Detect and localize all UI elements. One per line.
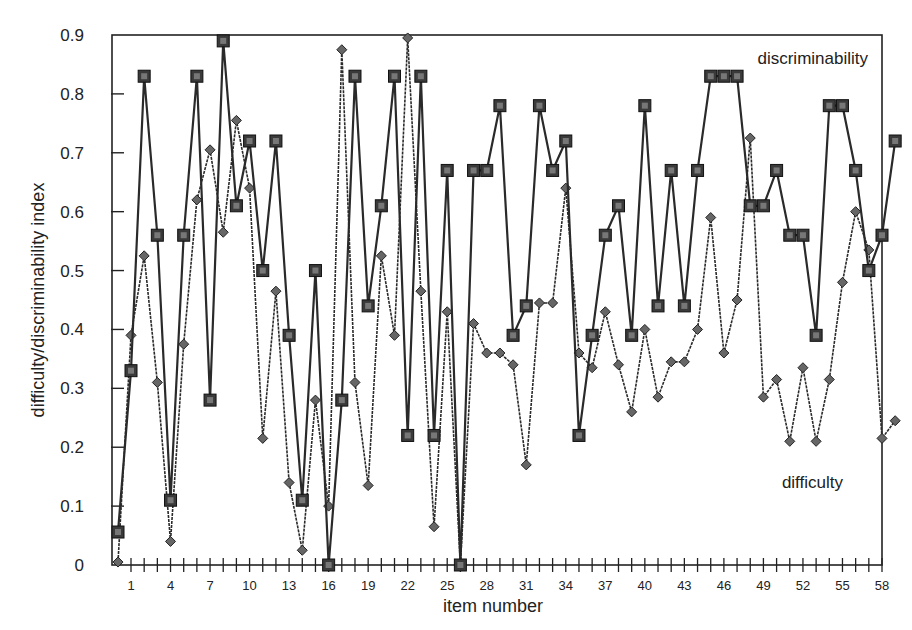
marker-inner <box>787 232 793 238</box>
x-tick-label: 25 <box>440 578 454 593</box>
difficulty-marker <box>271 286 281 296</box>
y-axis-ticks: 00.10.20.30.40.50.60.70.80.9 <box>60 26 124 575</box>
difficulty-marker <box>231 115 241 125</box>
marker-inner <box>695 167 701 173</box>
difficulty-marker <box>561 183 571 193</box>
marker-inner <box>813 332 819 338</box>
marker-inner <box>866 268 872 274</box>
marker-inner <box>444 167 450 173</box>
marker-inner <box>510 332 516 338</box>
x-tick-label: 13 <box>282 578 296 593</box>
marker-inner <box>853 167 859 173</box>
marker-inner <box>800 232 806 238</box>
x-tick-label: 19 <box>361 578 375 593</box>
marker-inner <box>879 232 885 238</box>
y-tick-label: 0.3 <box>60 379 84 398</box>
marker-inner <box>194 73 200 79</box>
difficulty-marker <box>429 522 439 532</box>
x-tick-label: 52 <box>796 578 810 593</box>
x-tick-label: 7 <box>206 578 213 593</box>
difficulty-marker <box>179 339 189 349</box>
marker-inner <box>286 332 292 338</box>
difficulty-marker <box>745 133 755 143</box>
marker-inner <box>484 167 490 173</box>
difficulty-marker <box>679 357 689 367</box>
difficulty-marker <box>534 298 544 308</box>
x-tick-label: 1 <box>127 578 134 593</box>
marker-inner <box>326 562 332 568</box>
marker-inner <box>576 432 582 438</box>
marker-inner <box>550 167 556 173</box>
marker-inner <box>247 138 253 144</box>
difficulty-marker <box>495 348 505 358</box>
difficulty-marker <box>350 377 360 387</box>
difficulty-label: difficulty <box>782 473 844 492</box>
x-tick-label: 58 <box>875 578 889 593</box>
x-axis-ticks: 1471013161922252831343740434649525558 <box>127 558 889 593</box>
x-tick-label: 37 <box>598 578 612 593</box>
marker-inner <box>352 73 358 79</box>
marker-inner <box>563 138 569 144</box>
difficulty-marker <box>376 251 386 261</box>
difficulty-marker <box>442 307 452 317</box>
y-tick-label: 0.4 <box>60 320 84 339</box>
marker-inner <box>365 303 371 309</box>
difficulty-marker <box>785 436 795 446</box>
difficulty-marker <box>416 286 426 296</box>
difficulty-marker <box>284 478 294 488</box>
marker-inner <box>602 232 608 238</box>
marker-inner <box>892 138 898 144</box>
difficulty-marker <box>719 348 729 358</box>
x-tick-label: 40 <box>638 578 652 593</box>
marker-inner <box>115 529 121 535</box>
marker-inner <box>378 203 384 209</box>
difficulty-marker <box>613 360 623 370</box>
marker-inner <box>233 203 239 209</box>
marker-inner <box>774 167 780 173</box>
x-tick-label: 49 <box>756 578 770 593</box>
difficulty-marker <box>337 45 347 55</box>
difficulty-marker <box>482 348 492 358</box>
y-tick-label: 0.7 <box>60 144 84 163</box>
marker-inner <box>392 73 398 79</box>
x-tick-label: 4 <box>167 578 174 593</box>
marker-inner <box>141 73 147 79</box>
difficulty-marker <box>469 319 479 329</box>
difficulty-marker <box>152 377 162 387</box>
marker-inner <box>457 562 463 568</box>
x-tick-label: 31 <box>519 578 533 593</box>
marker-inner <box>615 203 621 209</box>
y-tick-label: 0 <box>75 556 84 575</box>
marker-inner <box>471 167 477 173</box>
line-chart: 00.10.20.30.40.50.60.70.80.9 14710131619… <box>0 0 912 630</box>
marker-inner <box>708 73 714 79</box>
difficulty-marker <box>798 363 808 373</box>
x-tick-label: 43 <box>677 578 691 593</box>
x-axis-title: item number <box>443 596 543 616</box>
y-axis-title: difficulty/discriminability index <box>28 183 48 418</box>
difficulty-marker <box>600 307 610 317</box>
y-tick-label: 0.9 <box>60 26 84 45</box>
marker-inner <box>154 232 160 238</box>
difficulty-marker <box>310 395 320 405</box>
difficulty-marker <box>627 407 637 417</box>
marker-inner <box>273 138 279 144</box>
marker-inner <box>339 397 345 403</box>
difficulty-marker <box>772 375 782 385</box>
marker-inner <box>431 432 437 438</box>
difficulty-marker <box>824 375 834 385</box>
marker-inner <box>760 203 766 209</box>
difficulty-marker <box>297 545 307 555</box>
marker-inner <box>168 497 174 503</box>
marker-inner <box>220 38 226 44</box>
difficulty-marker <box>139 251 149 261</box>
difficulty-marker <box>732 295 742 305</box>
difficulty-marker <box>693 324 703 334</box>
marker-inner <box>128 368 134 374</box>
marker-inner <box>207 397 213 403</box>
marker-inner <box>642 103 648 109</box>
x-tick-label: 10 <box>242 578 256 593</box>
marker-inner <box>655 303 661 309</box>
difficulty-marker <box>205 145 215 155</box>
y-tick-label: 0.1 <box>60 497 84 516</box>
